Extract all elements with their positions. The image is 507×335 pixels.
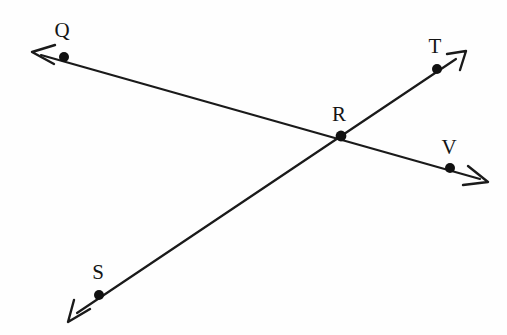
arrowhead-q-end [32,45,55,64]
point-dot-r [336,131,347,142]
point-label-r: R [332,104,346,125]
arrowhead-t-end [447,51,466,70]
point-dot-s [94,290,104,300]
line-s-r-t [68,51,466,322]
geometry-diagram: Q T R V S [0,0,507,335]
point-label-q: Q [54,20,69,41]
line-q-r-v-shaft [41,55,480,179]
point-dots [59,52,455,300]
point-label-s: S [92,262,104,283]
point-label-v: V [441,137,456,158]
point-dot-t [432,64,442,74]
point-dot-q [59,52,69,62]
line-s-r-t-shaft [77,59,456,313]
line-q-r-v [32,45,488,185]
point-label-t: T [429,36,442,57]
point-dot-v [445,163,455,173]
